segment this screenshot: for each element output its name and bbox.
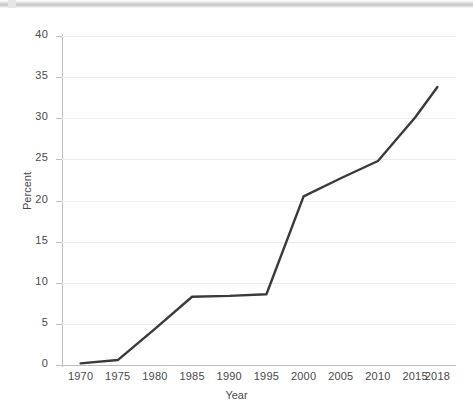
line-chart: 0510152025303540 19701975198019851990199… bbox=[0, 0, 473, 409]
series-layer bbox=[0, 0, 473, 409]
series-line-percent bbox=[81, 87, 438, 363]
y-axis-title: Percent bbox=[21, 146, 33, 236]
x-axis-title: Year bbox=[0, 389, 473, 401]
